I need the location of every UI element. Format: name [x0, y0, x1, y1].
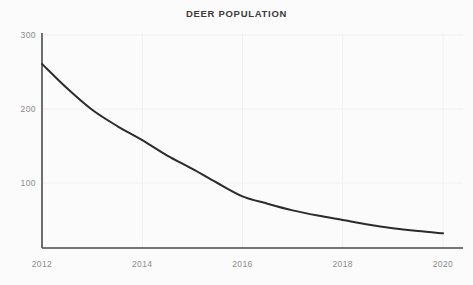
y-axis-tick-label: 300 — [12, 30, 36, 40]
chart-container: DEER POPULATION 100200300 20122014201620… — [0, 0, 473, 285]
x-axis-tick-label: 2016 — [223, 259, 263, 269]
gridlines — [42, 33, 463, 248]
plot-area — [0, 0, 473, 285]
x-axis-tick-label: 2014 — [122, 259, 162, 269]
x-axis-tick-label: 2018 — [323, 259, 363, 269]
y-axis-tick-label: 200 — [12, 104, 36, 114]
x-axis-tick-label: 2012 — [22, 259, 62, 269]
x-axis-tick-label: 2020 — [423, 259, 463, 269]
axis-lines — [42, 33, 463, 248]
y-axis-tick-label: 100 — [12, 178, 36, 188]
